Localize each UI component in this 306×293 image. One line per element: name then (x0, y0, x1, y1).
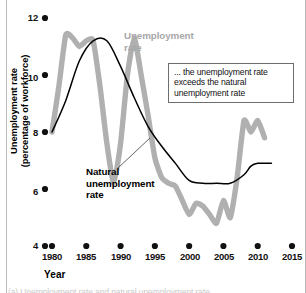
unemployment-rate-chart-figure: 12 10 8 6 4 1980 1985 1990 1995 2000 200… (0, 0, 306, 293)
x-tick-label-1980: 1980 (36, 251, 68, 262)
x-tick-label-2000: 2000 (174, 251, 206, 262)
x-tick-label-2005: 2005 (208, 251, 240, 262)
series-label-unemployment-line2: rate (124, 42, 142, 53)
x-tick-label-1985: 1985 (70, 251, 102, 262)
y-axis-tick-dots (42, 15, 48, 249)
y-axis-title: Unemployment rate (percentage of workfor… (8, 36, 30, 186)
y-tick-label-4: 4 (22, 240, 38, 251)
y-axis-title-line2: (percentage of workforce) (19, 55, 30, 168)
cut-off-caption: (a) Unemployment rate and natural unempl… (8, 287, 210, 293)
series-label-natural-rate: Natural unemployment rate (86, 166, 154, 201)
y-tick-label-6: 6 (22, 186, 38, 197)
x-tick-label-2015: 2015 (276, 251, 306, 262)
series-label-unemployment-rate: Unemployment rate (124, 30, 194, 53)
series-label-natural-line3: rate (86, 189, 104, 200)
series-label-natural-line1: Natural (86, 166, 119, 177)
x-tick-label-1990: 1990 (105, 251, 137, 262)
series-label-unemployment-line1: Unemployment (124, 30, 194, 41)
callout-line1: ... the unemployment (174, 67, 251, 77)
unemployment-rate-line (52, 34, 265, 224)
x-tick-label-1995: 1995 (139, 251, 171, 262)
x-axis-title: Year (44, 269, 66, 280)
callout-line3: unemployment rate (174, 88, 245, 98)
y-axis-title-line1: Unemployment rate (8, 68, 19, 154)
series-label-natural-line2: unemployment (86, 178, 154, 189)
callout-box-exceeds-natural-rate: ... the unemployment rate exceeds the na… (168, 63, 294, 103)
x-tick-label-2010: 2010 (242, 251, 274, 262)
x-axis-tick-dots (49, 243, 295, 249)
y-tick-label-12: 12 (22, 12, 38, 23)
